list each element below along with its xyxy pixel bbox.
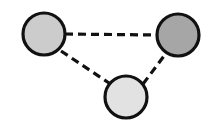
node-bottom xyxy=(105,76,147,118)
node-right xyxy=(157,14,199,56)
graph-canvas xyxy=(0,0,213,124)
graph-diagram-figure xyxy=(0,0,213,124)
node-left xyxy=(23,13,65,55)
edge-left-right xyxy=(65,34,157,35)
